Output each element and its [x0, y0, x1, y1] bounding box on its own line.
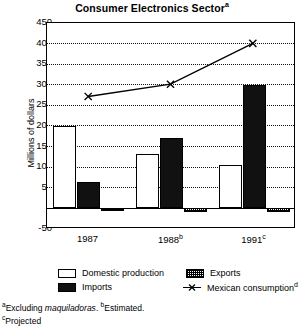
footnote-line-2: cProjected — [2, 313, 302, 326]
legend-label-mexican-consumption-text: Mexican consumption — [207, 283, 294, 293]
x-axis-tick-label-superscript: c — [262, 233, 266, 240]
x-axis-tick-label-text: 1991 — [241, 234, 262, 245]
legend-entry-mexican-consumption: Mexican consumptiond — [183, 281, 298, 293]
bar-domestic-production — [219, 165, 242, 208]
bar-imports — [160, 138, 183, 208]
footnotes: aExcluding maquiladoras. bEstimated. cPr… — [2, 300, 302, 326]
legend-entry-domestic-production: Domestic production — [58, 268, 186, 278]
chart-title: Consumer Electronics Sectora — [0, 1, 304, 14]
x-axis-tick-label-text: 1988 — [158, 234, 179, 245]
footnote-c-text: Projected — [5, 316, 41, 326]
exports-swatch-icon — [186, 269, 204, 278]
line-x-marker-icon — [183, 283, 201, 292]
bar-imports — [243, 85, 266, 209]
bar-imports — [77, 182, 100, 209]
consumption-x-marker-icon — [85, 93, 92, 100]
bar-domestic-production — [136, 154, 159, 209]
chart-title-superscript: a — [225, 1, 229, 8]
domestic-production-swatch-icon — [58, 269, 76, 278]
plot-area — [46, 22, 295, 228]
imports-swatch-icon — [58, 283, 76, 292]
x-axis-tick-label: 1991c — [219, 233, 289, 245]
footnote-b-text: Estimated. — [104, 303, 144, 313]
bar-exports — [267, 208, 290, 211]
footnote-a-italic: maquiladoras — [45, 303, 96, 313]
legend-entry-imports: Imports — [58, 282, 183, 292]
legend-label-domestic-production: Domestic production — [82, 268, 164, 278]
bar-exports — [101, 208, 124, 211]
legend-label-imports: Imports — [82, 282, 112, 292]
legend-entry-exports: Exports — [186, 268, 241, 278]
legend-row: Imports Mexican consumptiond — [58, 280, 298, 294]
x-axis-tick-label-text: 1987 — [77, 233, 98, 244]
x-axis-tick-label: 1987 — [53, 233, 123, 244]
footnote-a-text-part1: Excluding — [6, 303, 45, 313]
legend-label-mexican-consumption-superscript: d — [294, 281, 298, 288]
x-axis-tick-label-superscript: b — [179, 233, 183, 240]
footnote-line-1: aExcluding maquiladoras. bEstimated. — [2, 300, 302, 313]
gridline — [47, 43, 294, 44]
chart-title-text: Consumer Electronics Sector — [75, 2, 225, 14]
legend-row: Domestic production Exports — [58, 266, 298, 280]
bar-domestic-production — [53, 126, 76, 208]
x-axis-tick-label: 1988b — [136, 233, 206, 245]
legend-label-mexican-consumption: Mexican consumptiond — [207, 281, 298, 293]
chart-legend: Domestic production Exports Imports — [58, 266, 298, 294]
legend-label-exports: Exports — [210, 268, 241, 278]
gridline — [47, 64, 294, 65]
consumption-polyline — [88, 43, 253, 96]
bar-exports — [184, 208, 207, 211]
